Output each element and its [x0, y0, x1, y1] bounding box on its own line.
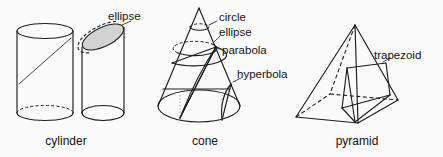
cone-base-ellipse [158, 90, 240, 122]
pyramid-trapezoid-left-edge [342, 68, 347, 108]
label-cone-circle: circle [219, 11, 246, 23]
label-cone-name: cone [192, 134, 218, 148]
label-cone-parabola: parabola [222, 44, 267, 56]
label-cylinder-name: cylinder [45, 134, 86, 148]
cone-ellipse-section-back [173, 41, 212, 53]
label-pyramid-name: pyramid [336, 134, 379, 148]
cylinder-bottom-hidden-arc [17, 106, 73, 113]
cone-circle-leader [209, 21, 217, 25]
cylinder-top-ellipse [17, 24, 73, 39]
pyramid-base-back-left-hidden [296, 94, 330, 117]
pyramid-edge-apex-back-hidden [330, 25, 355, 94]
cylinder-bottom-front-arc [17, 113, 73, 121]
cylinder-group: ellipse cylinder [17, 10, 141, 148]
geometry-diagram: ellipse cylinder [0, 0, 443, 157]
cylinder-cut-bottom-front-arc [82, 113, 124, 120]
cylinder-plain [17, 24, 73, 121]
label-cone-ellipse: ellipse [219, 26, 252, 38]
pyramid-group: trapezoid pyramid [296, 25, 421, 148]
pyramid-base-front-left [296, 117, 358, 123]
label-cylinder-ellipse: ellipse [108, 10, 141, 22]
cone-group: circle ellipse parabola hyperbola cone [158, 8, 288, 148]
pyramid-edge-apex-right [355, 25, 398, 100]
pyramid-edge-apex-front [355, 25, 358, 123]
cylinder-cut [73, 18, 127, 120]
cone-ellipse-plane-arc [172, 47, 227, 66]
pyramid-base-front-right [358, 100, 398, 123]
pyramid-trapezoid-brace-right [355, 95, 390, 122]
cylinder-cut-bottom-back-arc [82, 106, 124, 113]
figure-canvas: ellipse cylinder [0, 0, 443, 157]
cylinder-diagonal-section-line [19, 38, 71, 84]
cone-circle-section-front [190, 27, 209, 30]
label-pyramid-trapezoid: trapezoid [374, 49, 421, 61]
pyramid-trapezoid-top-edge [347, 63, 386, 68]
label-cone-hyperbola: hyperbola [237, 68, 288, 80]
